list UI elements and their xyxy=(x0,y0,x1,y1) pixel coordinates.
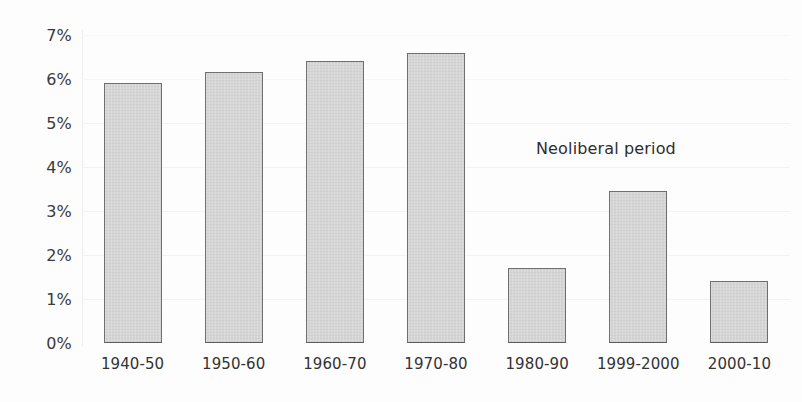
y-axis-tick-label: 7% xyxy=(26,26,72,45)
bar-chart: 0%1%2%3%4%5%6%7% 1940-501950-601960-7019… xyxy=(0,0,802,402)
bar xyxy=(407,53,465,343)
y-axis-tick-label: 0% xyxy=(26,334,72,353)
y-axis-tick-labels: 0%1%2%3%4%5%6%7% xyxy=(0,0,72,402)
x-axis-tick-labels: 1940-501950-601960-701970-801980-901999-… xyxy=(82,355,790,385)
bar-group xyxy=(588,0,689,402)
y-axis-tick-label: 2% xyxy=(26,246,72,265)
y-axis-tick-label: 4% xyxy=(26,158,72,177)
x-axis-tick-label: 2000-10 xyxy=(680,355,798,373)
bar-group xyxy=(82,0,183,402)
bar xyxy=(609,191,667,343)
bar xyxy=(306,61,364,343)
bars-layer xyxy=(82,0,790,402)
y-axis-tick-label: 1% xyxy=(26,290,72,309)
bar-group xyxy=(487,0,588,402)
bar-group xyxy=(183,0,284,402)
bar xyxy=(710,281,768,343)
bar-group xyxy=(689,0,790,402)
bar xyxy=(104,83,162,343)
annotation-neoliberal-period: Neoliberal period xyxy=(536,139,676,158)
bar xyxy=(205,72,263,343)
y-axis-tick-label: 5% xyxy=(26,114,72,133)
bar xyxy=(508,268,566,343)
y-axis-tick-label: 6% xyxy=(26,70,72,89)
bar-group xyxy=(284,0,385,402)
bar-group xyxy=(385,0,486,402)
y-axis-tick-label: 3% xyxy=(26,202,72,221)
